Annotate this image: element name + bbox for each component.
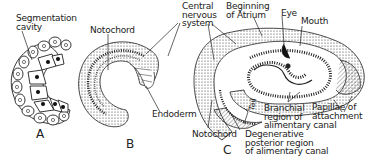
label-eye: Eye bbox=[281, 9, 297, 18]
leader-b-cns-2 bbox=[168, 23, 180, 56]
label-b-notochord: Notochord bbox=[90, 26, 135, 35]
label-endoderm: Endoderm bbox=[152, 110, 197, 119]
panel-letter-b: B bbox=[126, 138, 134, 150]
label-c-notochord: Notochord bbox=[192, 130, 237, 139]
panel-letter-a: A bbox=[36, 128, 44, 140]
label-central-nervous-system: Central nervous system bbox=[182, 2, 217, 28]
label-degenerative-region: Degenerative posterior region of aliment… bbox=[245, 130, 328, 156]
label-segmentation-cavity: Segmentation cavity bbox=[16, 14, 77, 31]
panel-a-embryo bbox=[11, 37, 71, 125]
label-papillae-of-attachment: Papillae of attachment bbox=[312, 103, 362, 120]
leader-b-cns-1 bbox=[146, 23, 178, 54]
panel-b-embryo bbox=[79, 42, 159, 127]
panel-letter-c: C bbox=[223, 144, 231, 156]
label-beginning-of-atrium: Beginning of Atrium bbox=[226, 2, 269, 19]
label-mouth: Mouth bbox=[301, 17, 328, 26]
